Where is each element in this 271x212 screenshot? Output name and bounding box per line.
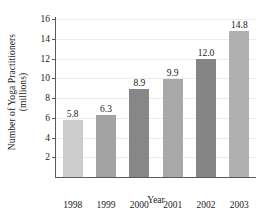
bar-chart: Number of Yoga Practitioners (millions) … bbox=[0, 0, 271, 212]
bar bbox=[229, 31, 249, 177]
bar bbox=[96, 115, 116, 177]
gridline bbox=[56, 59, 256, 60]
gridline bbox=[56, 118, 256, 119]
bar-value-label: 6.3 bbox=[100, 104, 112, 114]
y-axis-title-line1: Number of Yoga Practitioners bbox=[7, 7, 18, 177]
y-axis-tick bbox=[52, 39, 56, 40]
x-axis-line bbox=[55, 177, 256, 178]
y-axis-tick-label: 14 bbox=[41, 34, 51, 44]
gridline bbox=[56, 19, 256, 20]
gridline bbox=[56, 39, 256, 40]
bar bbox=[129, 89, 149, 177]
bar bbox=[63, 120, 83, 177]
y-axis-tick-label: 6 bbox=[45, 113, 50, 123]
bar bbox=[163, 79, 183, 177]
y-axis-tick bbox=[52, 157, 56, 158]
bar-value-label: 14.8 bbox=[231, 20, 248, 30]
y-axis-tick bbox=[52, 98, 56, 99]
gridline bbox=[56, 138, 256, 139]
y-axis-tick-label: 16 bbox=[41, 14, 51, 24]
y-axis-title-line2: (millions) bbox=[18, 7, 29, 177]
y-axis-tick bbox=[52, 118, 56, 119]
plot-area: 2468101214165.819986.319998.920009.92001… bbox=[56, 19, 256, 177]
x-axis-title: Year bbox=[56, 195, 256, 205]
gridline bbox=[56, 157, 256, 158]
bar-value-label: 12.0 bbox=[198, 48, 215, 58]
y-axis-tick-label: 4 bbox=[45, 133, 50, 143]
y-axis-title: Number of Yoga Practitioners (millions) bbox=[7, 7, 37, 177]
gridline bbox=[56, 78, 256, 79]
y-axis-tick bbox=[52, 59, 56, 60]
y-axis-tick bbox=[52, 138, 56, 139]
bar-value-label: 8.9 bbox=[133, 78, 145, 88]
y-axis-tick-label: 12 bbox=[41, 54, 51, 64]
y-axis-tick-label: 8 bbox=[45, 93, 50, 103]
y-axis-tick bbox=[52, 19, 56, 20]
y-axis-tick bbox=[52, 78, 56, 79]
y-axis-tick-label: 10 bbox=[41, 73, 51, 83]
gridline bbox=[56, 98, 256, 99]
y-axis-tick-label: 2 bbox=[45, 152, 50, 162]
bar-value-label: 5.8 bbox=[67, 109, 79, 119]
bar-value-label: 9.9 bbox=[167, 68, 179, 78]
bar bbox=[196, 59, 216, 178]
